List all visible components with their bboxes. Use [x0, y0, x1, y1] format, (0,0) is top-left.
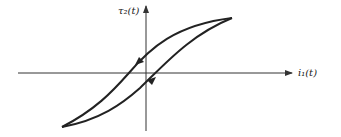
y-axis-label: τ₂(t)	[118, 5, 139, 16]
diagram-canvas	[0, 0, 341, 137]
x-axis-label: i₁(t)	[298, 67, 317, 78]
arrow-up-right-icon	[147, 77, 156, 85]
hysteresis-diagram: τ₂(t) i₁(t)	[0, 0, 341, 137]
